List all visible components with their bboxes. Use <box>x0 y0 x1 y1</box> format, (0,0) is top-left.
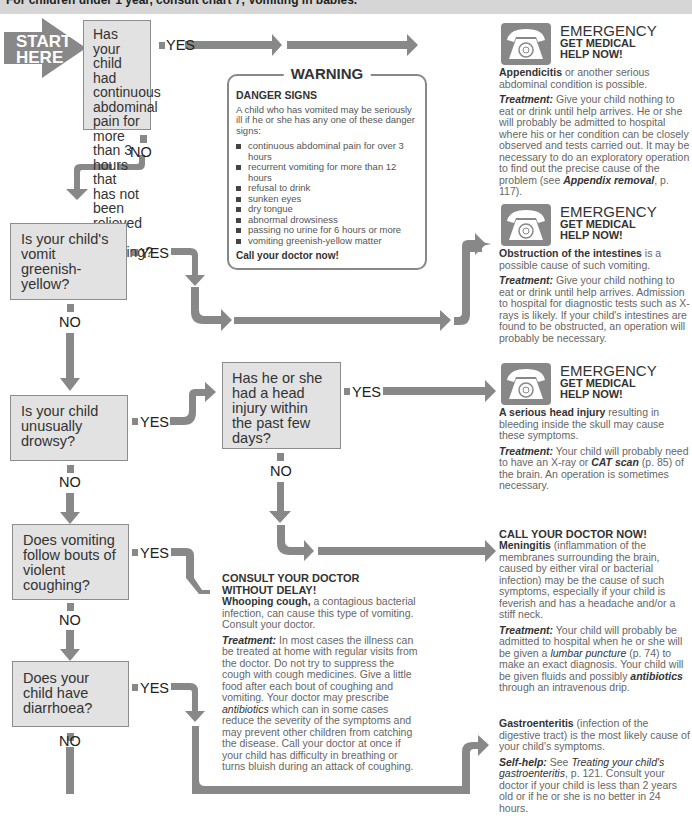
warning-title: WARNING <box>284 65 371 82</box>
cross-reference: lumbar puncture <box>550 647 626 659</box>
result-head-injury: A serious head injury resulting in bleed… <box>499 407 691 496</box>
cross-reference: antibiotics <box>222 703 269 715</box>
no-label: NO <box>59 612 81 628</box>
diagnosis-name: Obstruction of the intestines <box>499 247 642 259</box>
treatment-text: See <box>547 756 572 768</box>
emergency-label: EMERGENCY GET MEDICAL HELP NOW! <box>560 205 657 241</box>
warning-intro: A child who has vomited may be seriously… <box>236 105 420 137</box>
question-text: Is your child unusually drowsy? <box>21 403 98 449</box>
emergency-label: EMERGENCY GET MEDICAL HELP NOW! <box>560 24 657 60</box>
urgency-heading: CONSULT YOUR DOCTOR <box>222 572 418 584</box>
warning-box: WARNING DANGER SIGNS A child who has vom… <box>227 74 427 270</box>
diagnosis-name: A serious head injury <box>499 406 605 418</box>
emergency-sub: HELP NOW! <box>560 49 657 60</box>
question-head-injury: Has he or she had a head injury within t… <box>222 362 341 449</box>
cross-reference: CAT scan <box>591 456 639 468</box>
danger-sign-item: refusal to drink <box>236 183 420 194</box>
treatment-label: Treatment: <box>499 93 553 105</box>
yes-label: YES <box>140 245 169 261</box>
no-label: NO <box>59 733 81 749</box>
no-label: NO <box>270 463 292 479</box>
result-whooping-cough: CONSULT YOUR DOCTOR WITHOUT DELAY! Whoop… <box>222 572 418 777</box>
yes-label: YES <box>352 384 381 400</box>
diagnosis-name: Gastroenteritis <box>499 717 574 729</box>
treatment-label: Treatment: <box>499 274 553 286</box>
question-text: Does vomiting follow bouts of violent co… <box>23 532 116 593</box>
diagnosis-name: Meningitis <box>499 539 551 551</box>
diagnosis-name: Appendicitis <box>499 66 562 78</box>
treatment-label: Treatment: <box>222 634 276 646</box>
result-gastroenteritis: Gastroenteritis (infection of the digest… <box>499 718 691 816</box>
danger-sign-item: recurrent vomiting for more than 12 hour… <box>236 162 420 183</box>
question-drowsy: Is your child unusually drowsy? <box>10 395 128 461</box>
question-text: Is your child's vomit greenish-yellow? <box>21 231 108 292</box>
call-doctor-now: Call your doctor now! <box>236 251 420 262</box>
yes-label: YES <box>140 545 169 561</box>
emergency-sub: HELP NOW! <box>560 389 657 400</box>
no-label: NO <box>59 474 81 490</box>
here-label: HERE <box>16 50 71 66</box>
question-violent-coughing: Does vomiting follow bouts of violent co… <box>12 524 129 600</box>
result-appendicitis: Appendicitis or another serious abdomina… <box>499 67 691 202</box>
treatment-label: Treatment: <box>499 624 553 636</box>
question-abdominal-pain: Has your child had continuous abdominal … <box>83 20 151 130</box>
danger-sign-item: dry tongue <box>236 204 420 215</box>
telephone-icon <box>501 23 551 65</box>
cross-reference: antibiotics <box>630 670 683 682</box>
start-here-marker: STARTHERE <box>4 22 84 72</box>
danger-sign-item: passing no urine for 6 hours or more <box>236 225 420 236</box>
question-text: Has he or she had a head injury within t… <box>232 370 322 446</box>
emergency-title: EMERGENCY <box>560 24 657 38</box>
yes-label: YES <box>140 680 169 696</box>
treatment-label: Treatment: <box>499 445 553 457</box>
emergency-sub: HELP NOW! <box>560 230 657 241</box>
no-label: NO <box>130 144 152 160</box>
result-meningitis: CALL YOUR DOCTOR NOW! Meningitis (inflam… <box>499 528 691 698</box>
no-label: NO <box>59 314 81 330</box>
telephone-icon <box>501 204 551 246</box>
cross-reference: Appendix removal <box>563 174 654 186</box>
treatment-text: Give your child nothing to eat or drink … <box>499 93 689 186</box>
treatment-text: through an intravenous drip. <box>499 681 630 693</box>
yes-label: YES <box>166 37 195 53</box>
result-obstruction: Obstruction of the intestines is a possi… <box>499 248 691 348</box>
danger-signs-list: continuous abdominal pain for over 3 hou… <box>236 141 420 246</box>
question-diarrhoea: Does your child have diarrhoea? <box>12 661 129 727</box>
question-text: Does your child have diarrhoea? <box>23 670 92 716</box>
danger-signs-heading: DANGER SIGNS <box>236 90 420 101</box>
emergency-title: EMERGENCY <box>560 364 657 378</box>
emergency-label: EMERGENCY GET MEDICAL HELP NOW! <box>560 364 657 400</box>
telephone-icon <box>501 363 551 405</box>
self-help-label: Self-help: <box>499 756 547 768</box>
danger-sign-item: continuous abdominal pain for over 3 hou… <box>236 141 420 162</box>
question-greenish-vomit: Is your child's vomit greenish-yellow? <box>10 223 127 300</box>
emergency-title: EMERGENCY <box>560 205 657 219</box>
yes-label: YES <box>140 414 169 430</box>
diagnosis-name: Whooping cough, <box>222 595 311 607</box>
diagnosis-text: (inflammation of the membranes surroundi… <box>499 539 675 620</box>
danger-sign-item: vomiting greenish-yellow matter <box>236 236 420 247</box>
